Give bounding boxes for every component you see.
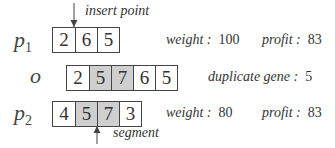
gene-cell: 5 [155, 66, 177, 90]
p1-weight: weight : 100 [166, 32, 240, 48]
p1-profit: profit : 83 [262, 32, 322, 48]
p2-chromosome: 4 5 7 3 [52, 101, 142, 127]
gene-cell: 2 [53, 28, 75, 52]
gene-cell: 6 [133, 66, 155, 90]
duplicate-gene: duplicate gene : 5 [208, 69, 312, 85]
offspring-label: o [30, 63, 41, 89]
gene-cell: 5 [97, 28, 119, 52]
p2-label: p2 [14, 100, 32, 129]
gene-cell: 6 [75, 28, 97, 52]
segment-arrow-icon [92, 126, 102, 144]
p1-label: p1 [14, 27, 32, 56]
segment-label: segment [113, 125, 159, 141]
gene-cell: 3 [119, 102, 141, 126]
offspring-chromosome: 2 5 7 6 5 [66, 65, 178, 91]
gene-cell-shaded: 5 [75, 102, 97, 126]
gene-cell-shaded: 7 [97, 102, 119, 126]
gene-cell: 4 [53, 102, 75, 126]
insert-point-label: insert point [85, 3, 149, 19]
p2-weight: weight : 80 [166, 105, 233, 121]
p1-chromosome: 2 6 5 [52, 27, 120, 53]
insert-point-arrow-icon [69, 3, 79, 28]
gene-cell-shaded: 5 [89, 66, 111, 90]
gene-cell: 2 [67, 66, 89, 90]
gene-cell-shaded: 7 [111, 66, 133, 90]
p2-profit: profit : 83 [262, 105, 322, 121]
